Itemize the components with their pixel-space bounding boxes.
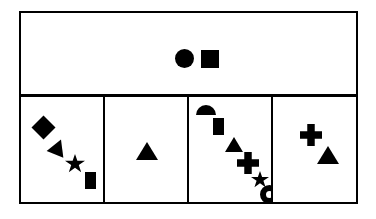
top-panel	[19, 11, 358, 96]
rectangle-icon	[213, 118, 224, 135]
square-icon	[201, 50, 219, 68]
panel-4	[271, 95, 358, 204]
triangle-icon	[317, 146, 339, 164]
triangle-icon	[47, 136, 70, 158]
triangle-icon	[136, 142, 158, 160]
shape-figure	[19, 11, 358, 204]
star-icon	[65, 154, 85, 173]
triangle-icon	[225, 137, 243, 152]
plus-icon	[237, 152, 259, 174]
panel-2	[103, 95, 189, 204]
semicircle-icon	[196, 105, 216, 115]
bottom-panel-row	[19, 95, 358, 204]
circle-icon	[175, 49, 194, 68]
panel-3	[187, 95, 273, 204]
panel-1	[19, 95, 105, 204]
rectangle-icon	[85, 172, 96, 189]
plus-icon	[300, 124, 322, 146]
